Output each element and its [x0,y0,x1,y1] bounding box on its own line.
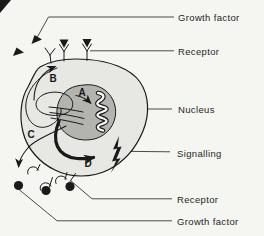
leader-growth-factor-bottom [19,190,172,221]
marker-d: D [85,159,92,169]
nucleus-shape [57,85,116,140]
label-receptor-bottom: Receptor [177,194,218,205]
label-signalling: Signalling [177,148,222,159]
label-growth-factor-top: Growth factor [178,12,240,23]
marker-c: C [28,130,35,140]
marker-a: A [79,88,86,98]
growth-factor-dot-1 [14,181,23,190]
growth-factor-dot-3 [65,182,74,191]
leader-growth-factor-top [37,17,175,39]
growth-factor-dot-2 [41,186,50,195]
label-nucleus: Nucleus [178,104,215,115]
leader-receptor-bottom [71,181,173,199]
page-corner-mark [0,0,11,13]
marker-b: B [50,74,57,84]
label-receptor-top: Receptor [178,46,219,57]
label-growth-factor-bottom: Growth factor [177,216,239,227]
growth-factor-triangle-2 [13,48,24,57]
cell-diagram [0,0,264,236]
figure-canvas: Growth factor Receptor Nucleus Signallin… [0,0,264,236]
growth-factor-triangle-1 [32,35,43,44]
receptor-y-free [45,48,55,63]
receptor-cup-1 [28,165,40,175]
